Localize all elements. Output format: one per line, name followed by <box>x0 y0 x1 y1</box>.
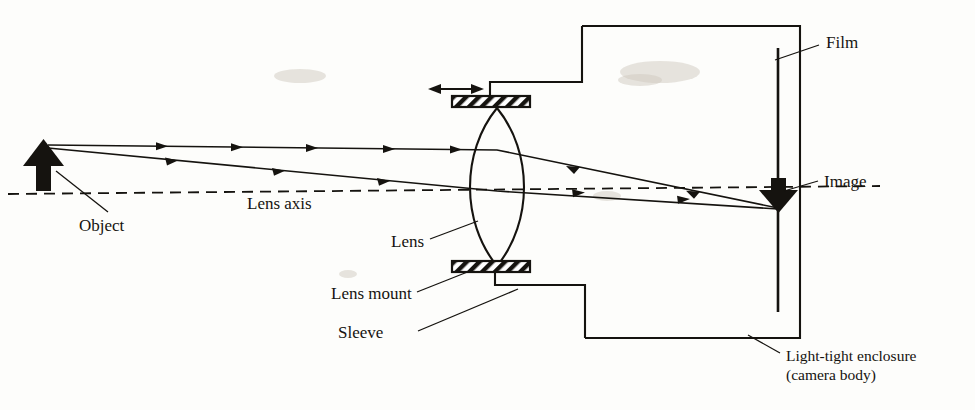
label-film: Film <box>826 33 858 52</box>
lens-mount-bottom <box>452 261 530 272</box>
sleeve-leader <box>418 289 518 331</box>
label-sleeve: Sleeve <box>338 323 383 342</box>
label-enclosure-line1: Light-tight enclosure <box>786 347 917 364</box>
light-rays <box>48 142 778 209</box>
label-object: Object <box>79 216 125 235</box>
object-arrow <box>23 139 64 191</box>
lens-mount-leader <box>417 271 470 292</box>
paper-smudges <box>274 61 700 278</box>
object-leader <box>56 171 108 212</box>
label-lens-mount: Lens mount <box>331 284 412 303</box>
lens-axis <box>8 186 880 194</box>
camera-ray-diagram: Object Lens axis Lens Lens mount Sleeve … <box>0 0 975 410</box>
label-lens-axis: Lens axis <box>247 194 312 213</box>
focus-adjust-arrow <box>428 84 484 94</box>
diagram-canvas: Object Lens axis Lens Lens mount Sleeve … <box>0 0 975 410</box>
sleeve <box>490 26 585 338</box>
lens-leader <box>430 221 478 239</box>
lens <box>470 108 524 266</box>
label-lens: Lens <box>391 232 424 251</box>
label-enclosure-line2: (camera body) <box>786 366 876 384</box>
film-leader <box>775 45 819 60</box>
lens-mount-top <box>452 96 530 107</box>
label-image: Image <box>824 172 866 191</box>
